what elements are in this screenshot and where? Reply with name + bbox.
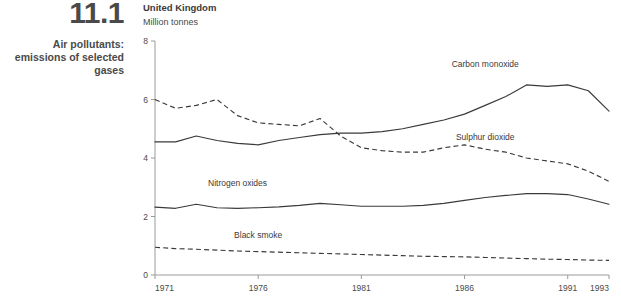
- y-tick-label: 0: [143, 270, 148, 280]
- line-chart: 02468197119761981198619911993Carbon mono…: [0, 0, 621, 296]
- x-tick-label: 1981: [352, 283, 371, 293]
- x-tick-label: 1971: [155, 283, 174, 293]
- series-line-nitrogen-oxides: [155, 194, 609, 209]
- x-tick-label: 1976: [249, 283, 268, 293]
- series-label-carbon-monoxide: Carbon monoxide: [452, 59, 519, 69]
- series-line-carbon-monoxide: [155, 85, 609, 145]
- series-line-sulphur-dioxide: [155, 100, 609, 182]
- x-tick-label: 1991: [558, 283, 577, 293]
- plot-area: 02468197119761981198619911993Carbon mono…: [0, 0, 621, 296]
- y-tick-label: 8: [143, 36, 148, 46]
- y-tick-label: 4: [143, 153, 148, 163]
- x-tick-label: 1986: [455, 283, 474, 293]
- series-label-black-smoke: Black smoke: [234, 230, 282, 240]
- y-tick-label: 2: [143, 212, 148, 222]
- series-label-nitrogen-oxides: Nitrogen oxides: [208, 178, 267, 188]
- series-label-sulphur-dioxide: Sulphur dioxide: [456, 132, 515, 142]
- series-line-black-smoke: [155, 247, 609, 260]
- y-tick-label: 6: [143, 95, 148, 105]
- x-tick-label: 1993: [590, 283, 609, 293]
- chart-page: 11.1 Air pollutants: emissions of select…: [0, 0, 621, 296]
